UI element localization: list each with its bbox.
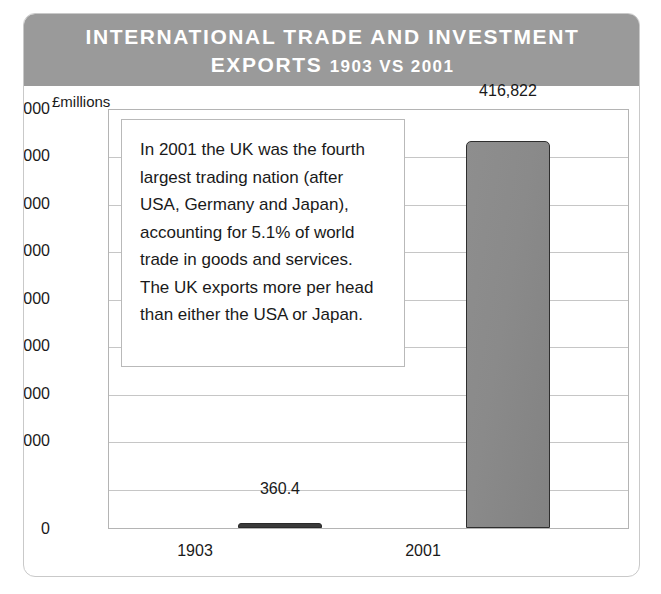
chart-title-subject: EXPORTS [211, 53, 330, 76]
chart-title-line-1: INTERNATIONAL TRADE AND INVESTMENT [24, 23, 640, 51]
y-tick-label: 100,000 [23, 385, 50, 403]
gridline [109, 395, 628, 396]
chart-card: INTERNATIONAL TRADE AND INVESTMENT EXPOR… [23, 13, 640, 577]
y-axis-unit-label: £millions [52, 93, 110, 110]
y-tick-label: 0 [23, 520, 50, 538]
y-tick-label: 300,000 [23, 195, 50, 213]
bar-2001[interactable] [466, 141, 550, 528]
gridline [109, 490, 628, 491]
chart-title-line-2: EXPORTS 1903 VS 2001 [24, 51, 640, 79]
gridline [109, 442, 628, 443]
annotation-box: In 2001 the UK was the fourth largest tr… [121, 119, 405, 367]
y-tick-label: 400,000 [23, 100, 50, 118]
y-tick-label: 50,000 [23, 432, 50, 450]
bar-value-label-2001: 416,822 [438, 82, 578, 100]
y-tick-label: 150,000 [23, 337, 50, 355]
annotation-text: In 2001 the UK was the fourth largest tr… [140, 136, 386, 329]
bar-value-label-1903: 360.4 [210, 480, 350, 498]
y-tick-label: 250,000 [23, 242, 50, 260]
y-tick-label: 350,000 [23, 147, 50, 165]
bar-1903[interactable] [238, 523, 322, 528]
chart-title-years: 1903 VS 2001 [330, 57, 455, 76]
y-tick-label: 200,000 [23, 290, 50, 308]
x-tick-label-1903: 1903 [120, 542, 270, 560]
chart-header: INTERNATIONAL TRADE AND INVESTMENT EXPOR… [24, 14, 640, 86]
x-tick-label-2001: 2001 [348, 542, 498, 560]
